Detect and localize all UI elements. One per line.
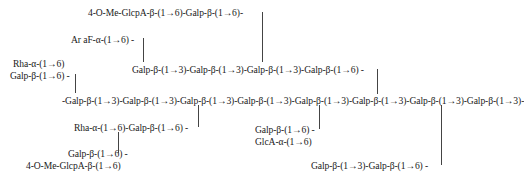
bottom-right-label: Galp-β-(1→3)-Galp-β-(1→6) - <box>311 160 428 171</box>
connector-araf <box>143 38 144 62</box>
left-gal-label: Galp-β-(1→6) - <box>10 70 70 81</box>
connector-mid-gal <box>319 105 320 129</box>
araf-label: Ar aF-α-(1→6) - <box>71 34 134 45</box>
connector-upper-chain <box>377 69 378 94</box>
rha-gal-label: Rha-α-(1→6)-Galp-β-(1→6) - <box>74 122 188 133</box>
mid-gal-label: Galp-β-(1→6) - <box>255 124 315 135</box>
connector-top-branch <box>262 12 263 62</box>
connector-left-gal <box>75 74 76 93</box>
glca-label: GlcA-α-(1→6) <box>255 136 312 147</box>
main-chain-label: -Galp-β-(1→3)-Galp-β-(1→3)-Galp-β-(1→3)-… <box>62 95 524 106</box>
bottom-left-glcpa-label: 4-O-Me-GlcpA-β-(1→6) <box>26 160 121 171</box>
left-rha-label: Rha-α-(1→6) <box>13 58 64 69</box>
upper-chain-label: Galp-β-(1→3)-Galp-β-(1→3)-Galp-β-(1→3)-G… <box>132 64 364 75</box>
connector-gal-branch <box>118 132 119 153</box>
connector-bottom-right <box>441 105 442 165</box>
connector-rha-gal <box>198 105 199 127</box>
top-branch-label: 4-O-Me-GlcpA-β-(1→6)-Galp-β-(1→6)- <box>88 7 243 18</box>
